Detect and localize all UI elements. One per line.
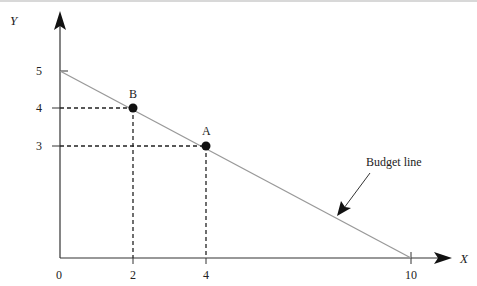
x-tick-label-4: 4 [203,269,209,281]
annotation-arrow-line [344,173,370,208]
point-a-label: A [202,125,211,137]
point-b [129,104,138,113]
point-a [202,142,211,151]
y-tick-label-4: 4 [36,102,42,114]
point-b-label: B [129,88,137,100]
origin-label: 0 [56,269,62,281]
x-tick-label-10: 10 [405,269,417,281]
x-tick-label-2: 2 [130,269,136,281]
annotation-arrowhead-icon [337,201,351,216]
budget-line-diagram [0,0,477,286]
budget-line [60,71,411,258]
y-tick-label-5: 5 [36,65,42,77]
y-tick-label-3: 3 [36,140,42,152]
x-axis-label: X [460,252,468,265]
y-axis-label: Y [10,14,17,27]
budget-line-label: Budget line [366,156,422,168]
